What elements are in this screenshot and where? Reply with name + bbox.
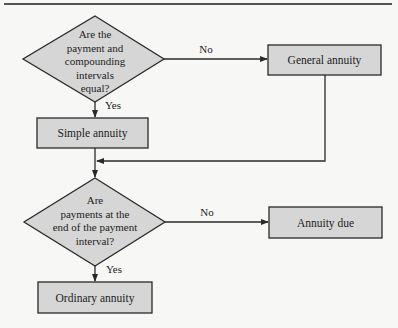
ordinary-annuity-label: Ordinary annuity — [38, 282, 152, 313]
simple-annuity-label: Simple annuity — [37, 118, 148, 148]
annuity-due-label: Annuity due — [269, 207, 382, 238]
decision2-no-label: No — [196, 206, 218, 219]
decision1-no-label: No — [195, 43, 217, 56]
decision2-yes-label: Yes — [106, 263, 122, 276]
decision1-yes-label: Yes — [105, 99, 121, 112]
decision2-question: Are payments at the end of the payment i… — [40, 194, 150, 248]
decision1-question: Are the payment and compounding interval… — [45, 28, 145, 96]
general-annuity-label: General annuity — [268, 45, 381, 75]
